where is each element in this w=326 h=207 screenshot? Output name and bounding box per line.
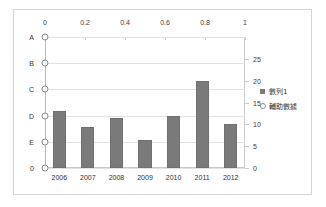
bar (110, 118, 123, 168)
gridline (45, 116, 245, 117)
category-axis-label: D (29, 112, 41, 119)
gridline (45, 63, 245, 64)
value-axis-tick-mark (245, 103, 249, 104)
top-axis-tick-label: 1 (243, 19, 247, 26)
category-axis-label: C (29, 86, 41, 93)
chart-legend: 數列1 輔助數據 (260, 86, 312, 116)
legend-item-series1[interactable]: 數列1 (260, 86, 312, 96)
value-axis-tick-mark (245, 81, 249, 82)
category-axis-label: 0 (30, 165, 41, 172)
bar (81, 127, 94, 168)
bar (53, 111, 66, 168)
helper-series-connector-line (45, 37, 46, 168)
value-axis-tick-mark (245, 168, 249, 169)
square-marker-icon (260, 89, 265, 94)
chart-frame: 00.20.40.60.81 ABCDE0 0510152025 2006200… (13, 9, 312, 195)
category-axis-label: A (29, 34, 41, 41)
plot-area (45, 37, 245, 168)
value-axis-tick-mark (245, 59, 249, 60)
helper-data-point-marker (42, 138, 49, 145)
x-axis-tick-label: 2012 (223, 174, 239, 181)
helper-data-point-marker (42, 112, 49, 119)
top-axis-tick-label: 0.2 (80, 19, 90, 26)
top-axis-tick-label: 0.6 (160, 19, 170, 26)
x-axis-tick-label: 2006 (51, 174, 67, 181)
legend-item-helper-data[interactable]: 輔助數據 (260, 101, 312, 111)
helper-data-point-marker (42, 60, 49, 67)
helper-data-point-marker (42, 165, 49, 172)
value-axis-label: 25 (253, 55, 261, 62)
value-axis-label: 5 (253, 143, 257, 150)
bar (138, 140, 151, 168)
category-axis-label: E (29, 138, 41, 145)
x-axis-tick-label: 2007 (80, 174, 96, 181)
value-axis-label: 10 (253, 121, 261, 128)
gridline (45, 37, 245, 38)
bar (167, 116, 180, 168)
legend-item-label: 輔助數據 (269, 101, 297, 111)
x-axis-tick-label: 2009 (137, 174, 153, 181)
value-axis-label: 20 (253, 77, 261, 84)
bar (196, 81, 209, 168)
top-axis-tick-label: 0.8 (200, 19, 210, 26)
helper-data-point-marker (42, 86, 49, 93)
bar (224, 124, 237, 168)
legend-item-label: 數列1 (269, 86, 287, 96)
value-axis-tick-mark (245, 124, 249, 125)
x-axis-tick-label: 2008 (109, 174, 125, 181)
top-axis-tick-mark (245, 37, 246, 40)
gridline (45, 89, 245, 90)
value-axis-tick-mark (245, 146, 249, 147)
x-axis-tick-label: 2010 (166, 174, 182, 181)
top-axis-tick-label: 0 (43, 19, 47, 26)
circle-marker-icon (260, 103, 266, 109)
category-axis-label: B (29, 60, 41, 67)
x-axis-tick-label: 2011 (195, 174, 210, 181)
top-axis-tick-label: 0.4 (120, 19, 130, 26)
value-axis-label: 0 (253, 165, 257, 172)
helper-data-point-marker (42, 34, 49, 41)
gridline (45, 168, 245, 169)
